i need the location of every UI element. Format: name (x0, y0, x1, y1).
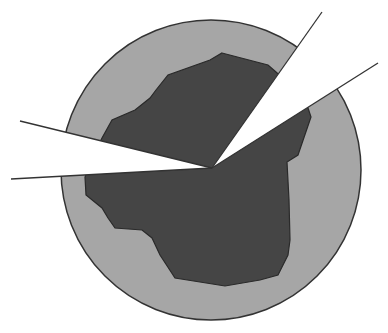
diagram (0, 0, 388, 333)
